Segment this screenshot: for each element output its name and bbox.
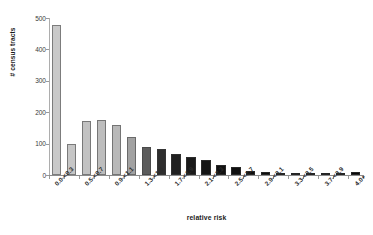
x-axis-tick-label: 1.3-<1.5 <box>143 165 165 187</box>
y-axis-tick-mark <box>46 18 49 19</box>
x-axis-title: relative risk <box>49 214 364 221</box>
x-axis-tick-label: 0.9-<1.1 <box>113 165 135 187</box>
x-axis-tick-label: 2.1-<2.3 <box>203 165 225 187</box>
x-axis-tick-label: 2.5-<2.7 <box>233 165 255 187</box>
y-axis-tick-mark <box>46 175 49 176</box>
x-axis-tick-labels: 0.0-<0.30.5-<0.70.9-<1.11.3-<1.51.7-<1.9… <box>0 0 373 235</box>
x-axis-tick-label: 3.3-<3.5 <box>293 165 315 187</box>
y-axis-tick-mark <box>46 112 49 113</box>
x-axis-tick-label: 1.7-<1.9 <box>173 165 195 187</box>
x-axis-tick-label: 2.9-<3.1 <box>263 165 285 187</box>
y-axis-tick-mark <box>46 144 49 145</box>
chart-container: # census tracts 0100200300400500 0.0-<0.… <box>0 0 373 235</box>
x-axis-tick-label: 0.5-<0.7 <box>83 165 105 187</box>
y-axis-tick-mark <box>46 81 49 82</box>
y-axis-tick-mark <box>46 49 49 50</box>
x-axis-tick-label: 3.7-<3.9 <box>323 165 345 187</box>
x-axis-tick-label: 0.0-<0.3 <box>53 165 75 187</box>
x-axis-tick-label: 4.0+ <box>353 173 367 187</box>
